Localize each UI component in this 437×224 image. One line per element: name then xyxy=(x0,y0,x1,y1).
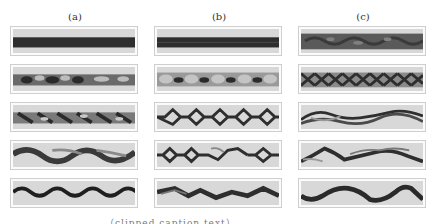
panel-c-4 xyxy=(298,140,426,170)
column-label-a: (a) xyxy=(55,11,95,22)
panel-b-5 xyxy=(154,178,282,208)
panel-b-4 xyxy=(154,140,282,170)
panel-b-1 xyxy=(154,26,282,56)
column-label-b: (b) xyxy=(199,11,239,22)
panel-c-1 xyxy=(298,26,426,56)
panel-b-2 xyxy=(154,64,282,94)
panel-a-5 xyxy=(10,178,138,208)
column-label-c: (c) xyxy=(343,11,383,22)
figure-caption: …（clipped caption text）… xyxy=(95,216,435,224)
panel-a-4 xyxy=(10,140,138,170)
panel-c-3 xyxy=(298,102,426,132)
panel-b-3 xyxy=(154,102,282,132)
panel-a-2 xyxy=(10,64,138,94)
panel-c-5 xyxy=(298,178,426,208)
panel-c-2 xyxy=(298,64,426,94)
panel-a-3 xyxy=(10,102,138,132)
panel-a-1 xyxy=(10,26,138,56)
